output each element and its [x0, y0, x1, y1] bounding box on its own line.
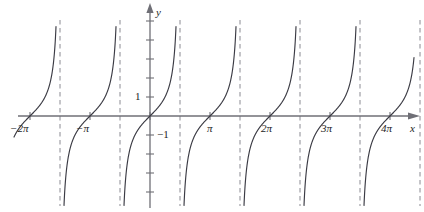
x-tick-label-2pi: 2π: [261, 123, 272, 134]
y-tick-label-minus-1: −1: [157, 129, 169, 140]
x-tick-label-4pi: 4π: [381, 123, 392, 134]
x-tick-label-pi: π: [207, 123, 213, 134]
y-axis-arrowhead: [146, 3, 153, 13]
y-axis-label: y: [156, 7, 161, 18]
x-tick-label-3pi: 3π: [321, 123, 332, 134]
x-tick-label-minus-pi: −π: [76, 123, 89, 134]
x-axis-label: x: [410, 123, 415, 134]
tangent-branch: [14, 27, 56, 137]
axes-group: [18, 10, 412, 208]
arrowhead-group: [146, 3, 420, 120]
tick-group: [30, 21, 390, 192]
tangent-function-graph: y x 1 −1 −2π −π π 2π 3π 4π: [0, 0, 424, 212]
x-tick-label-minus-2pi: −2π: [10, 123, 28, 134]
y-tick-label-1: 1: [135, 91, 141, 102]
x-axis-arrowhead: [408, 112, 420, 119]
graph-canvas: [0, 0, 424, 212]
